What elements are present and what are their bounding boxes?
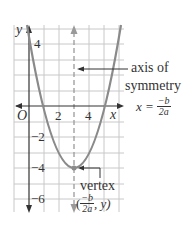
axis-of-symmetry-formula: x = −b 2a	[136, 96, 171, 117]
formula-fraction: −b 2a	[157, 96, 171, 117]
symmetry-pointer-arrow	[77, 67, 128, 72]
axis-of-symmetry-label-line2: symmetry	[125, 79, 181, 93]
y-tick-neg2: −2	[31, 130, 45, 143]
formula-lhs: x =	[136, 100, 154, 113]
vertex-coordinates: ( −b 2a , y)	[76, 193, 111, 214]
origin-label: O	[17, 109, 27, 123]
x-axis	[15, 103, 124, 109]
vertex-label: vertex	[80, 179, 115, 193]
y-tick-neg6: −6	[31, 192, 45, 205]
axis-of-symmetry-label-line1: axis of	[131, 61, 169, 75]
x-axis-label: x	[110, 108, 116, 122]
vertex-point	[72, 166, 77, 171]
y-tick-neg4: −4	[31, 161, 45, 174]
vertex-coord-denominator: 2a	[82, 204, 92, 214]
x-tick-4: 4	[85, 109, 92, 122]
y-tick-4: 4	[34, 37, 41, 50]
vertex-coord-rest: , y)	[94, 197, 111, 210]
x-tick-2: 2	[55, 109, 62, 122]
vertex-coord-fraction: −b 2a	[80, 193, 94, 214]
axis-of-symmetry-line	[71, 25, 78, 213]
formula-denominator: 2a	[159, 107, 169, 117]
y-axis-label: y	[16, 23, 22, 37]
